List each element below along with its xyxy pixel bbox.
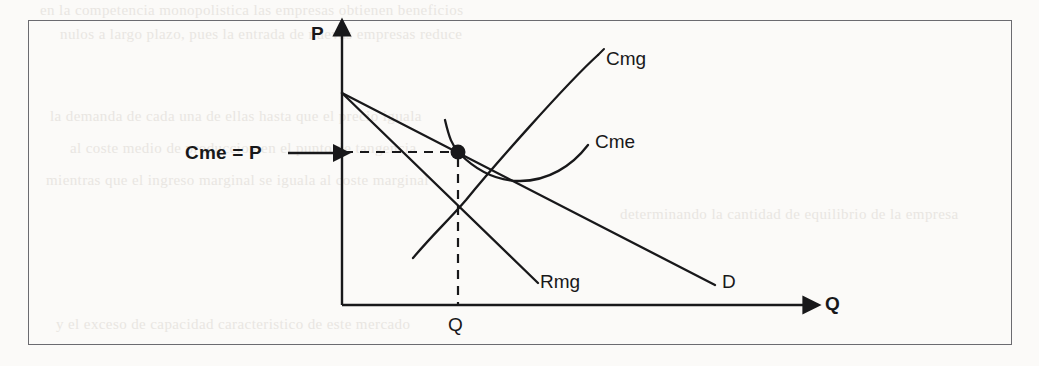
demand-label: D <box>722 271 736 293</box>
economics-diagram <box>0 0 1039 366</box>
quantity-tick-label: Q <box>448 314 463 336</box>
x-axis-label: Q <box>825 293 840 315</box>
marginal-cost-curve <box>413 55 598 258</box>
scanned-figure-page: en la competencia monopolistica las empr… <box>0 0 1039 366</box>
price-callout-label: Cme = P <box>185 142 262 164</box>
marginal-revenue-label: Rmg <box>540 271 580 293</box>
y-axis-label: P <box>311 23 324 45</box>
average-cost-label: Cme <box>595 131 635 153</box>
average-cost-curve <box>445 120 588 181</box>
equilibrium-point <box>451 145 466 160</box>
marginal-revenue-curve <box>342 93 538 283</box>
demand-curve <box>342 93 715 285</box>
marginal-cost-leader-line <box>598 49 604 55</box>
marginal-cost-label: Cmg <box>606 48 646 70</box>
